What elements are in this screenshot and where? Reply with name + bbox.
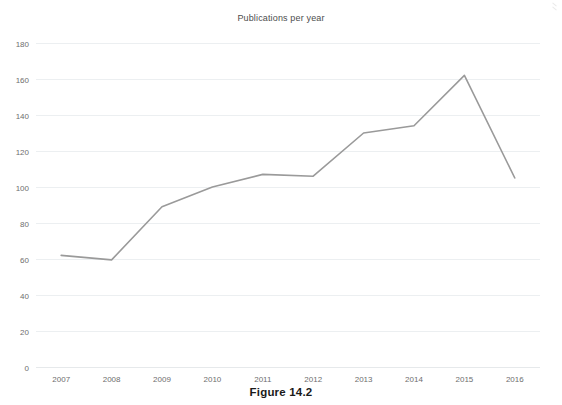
line-chart-plot: 020406080100120140160180 200720082009201…: [0, 0, 562, 382]
y-axis-tick-label: 20: [20, 328, 29, 337]
y-axis-tick-label: 80: [20, 220, 29, 229]
y-axis-tick-labels: 020406080100120140160180: [16, 40, 30, 373]
x-axis-tick-label: 2016: [506, 375, 524, 382]
chart-area: Publications per year 020406080100120140…: [0, 0, 562, 382]
y-axis-tick-label: 180: [16, 40, 30, 49]
figure-caption: Figure 14.2: [0, 386, 562, 398]
gridlines: [36, 44, 540, 368]
y-axis-tick-label: 100: [16, 184, 30, 193]
data-series-group: [61, 75, 515, 260]
x-axis-tick-label: 2013: [355, 375, 373, 382]
x-axis-tick-label: 2008: [103, 375, 121, 382]
y-axis-tick-label: 40: [20, 292, 29, 301]
x-axis-tick-label: 2012: [304, 375, 322, 382]
y-axis-tick-label: 60: [20, 256, 29, 265]
x-axis-tick-label: 2010: [204, 375, 222, 382]
x-axis-tick-labels: 2007200820092010201120122013201420152016: [52, 375, 524, 382]
y-axis-tick-label: 160: [16, 76, 30, 85]
x-axis-tick-label: 2007: [52, 375, 70, 382]
figure-container: Publications per year 020406080100120140…: [0, 0, 562, 405]
x-axis-tick-label: 2014: [405, 375, 423, 382]
y-axis-tick-label: 0: [25, 364, 30, 373]
x-axis-tick-label: 2009: [153, 375, 171, 382]
y-axis-tick-label: 140: [16, 112, 30, 121]
x-axis-tick-label: 2015: [456, 375, 474, 382]
x-axis-tick-label: 2011: [254, 375, 272, 382]
data-series-line: [61, 75, 515, 260]
y-axis-tick-label: 120: [16, 148, 30, 157]
